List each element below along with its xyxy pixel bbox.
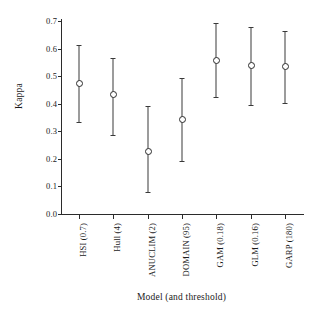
x-tick-label: GAM (0.18)	[215, 223, 225, 267]
error-bar-cap-upper	[282, 31, 287, 32]
error-bar-cap-lower	[180, 161, 185, 162]
error-bar-cap-upper	[111, 58, 116, 59]
error-bar-cap-lower	[248, 105, 253, 106]
y-tick-mark	[58, 186, 62, 187]
x-tick-label: DOMAIN (95)	[181, 223, 191, 276]
plot-area: 0.00.10.20.30.40.50.60.7HSI (0.7)Hull (4…	[62, 21, 302, 214]
x-tick-mark	[79, 214, 80, 219]
y-axis-title: Kappa	[14, 83, 24, 109]
error-bar-cap-lower	[214, 97, 219, 98]
y-tick-label: 0.7	[46, 16, 57, 26]
error-bar-cap-upper	[145, 106, 150, 107]
x-tick-mark	[216, 214, 217, 219]
data-point-marker	[110, 91, 117, 98]
error-bar-cap-upper	[180, 78, 185, 79]
x-tick-label: GLM (0.16)	[250, 223, 260, 267]
error-bar-cap-upper	[214, 23, 219, 24]
x-tick-label: Hull (4)	[112, 223, 122, 252]
y-tick-label: 0.6	[46, 44, 57, 54]
y-tick-mark	[58, 104, 62, 105]
error-bar-cap-lower	[111, 135, 116, 136]
x-tick-label: GARP (180)	[284, 223, 294, 268]
error-bar-cap-upper	[77, 45, 82, 46]
y-tick-label: 0.5	[46, 71, 57, 81]
error-bar-cap-lower	[145, 192, 150, 193]
x-tick-mark	[182, 214, 183, 219]
x-tick-mark	[251, 214, 252, 219]
x-tick-label: ANUCLIM (2)	[147, 223, 157, 277]
y-tick-label: 0.0	[46, 209, 57, 219]
data-point-marker	[213, 57, 220, 64]
y-tick-mark	[58, 214, 62, 215]
chart-figure: 0.00.10.20.30.40.50.60.7HSI (0.7)Hull (4…	[0, 0, 317, 316]
x-tick-label: HSI (0.7)	[78, 223, 88, 257]
error-bar-cap-upper	[248, 27, 253, 28]
error-bar-cap-lower	[282, 103, 287, 104]
y-tick-mark	[58, 21, 62, 22]
y-tick-mark	[58, 76, 62, 77]
error-bar-cap-lower	[77, 122, 82, 123]
x-axis-title-text: Model (and threshold)	[91, 292, 226, 302]
data-point-marker	[282, 63, 289, 70]
y-tick-label: 0.1	[46, 181, 57, 191]
x-tick-mark	[285, 214, 286, 219]
x-axis-title: Model (and threshold)	[0, 292, 317, 302]
y-tick-mark	[58, 49, 62, 50]
y-tick-label: 0.4	[46, 99, 57, 109]
x-tick-mark	[148, 214, 149, 219]
y-tick-label: 0.2	[46, 154, 57, 164]
y-tick-label: 0.3	[46, 126, 57, 136]
x-tick-mark	[113, 214, 114, 219]
y-tick-mark	[58, 159, 62, 160]
data-point-marker	[145, 148, 152, 155]
data-point-marker	[248, 62, 255, 69]
y-tick-mark	[58, 131, 62, 132]
data-point-marker	[76, 80, 83, 87]
data-point-marker	[179, 116, 186, 123]
